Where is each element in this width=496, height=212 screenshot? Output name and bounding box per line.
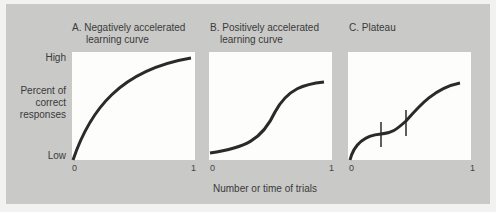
curve-c [350, 83, 460, 160]
x-tick-a-1: 1 [191, 163, 196, 173]
x-tick-c-0: 0 [349, 163, 354, 173]
curves [0, 0, 496, 212]
curve-b [210, 82, 324, 153]
x-tick-c-1: 1 [470, 163, 475, 173]
x-axis-label: Number or time of trials [213, 183, 317, 195]
curve-a [73, 58, 191, 160]
x-tick-b-0: 0 [210, 163, 215, 173]
x-tick-a-0: 0 [72, 163, 77, 173]
x-tick-b-1: 1 [329, 163, 334, 173]
